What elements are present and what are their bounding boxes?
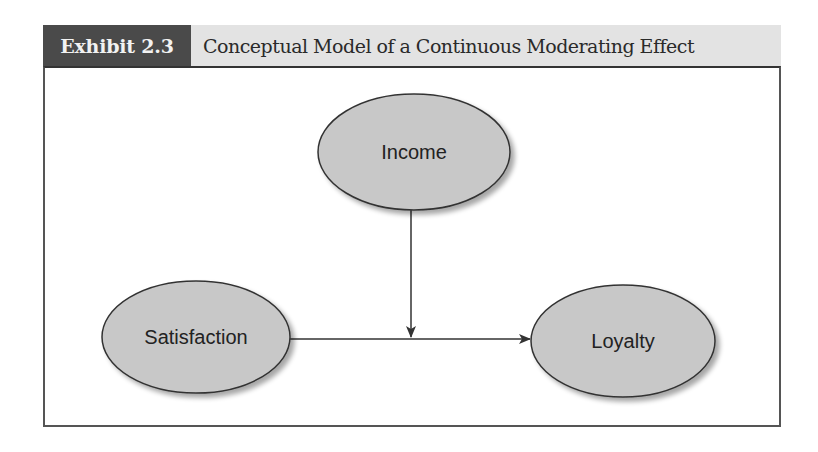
- node-income-label: Income: [381, 141, 447, 163]
- node-loyalty-label: Loyalty: [591, 330, 654, 352]
- node-income: Income: [318, 94, 510, 210]
- node-satisfaction-label: Satisfaction: [144, 326, 247, 348]
- moderation-diagram: Income Satisfaction Loyalty: [0, 0, 818, 452]
- node-loyalty: Loyalty: [531, 285, 715, 397]
- node-satisfaction: Satisfaction: [102, 281, 290, 393]
